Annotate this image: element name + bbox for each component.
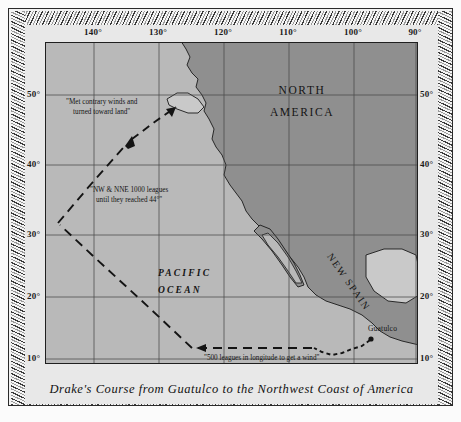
lon-tick-90: 90° — [408, 27, 421, 37]
lat-tick-left-30: 30° — [27, 229, 40, 239]
annotation-nw-nne-leagues-line2: until they reached 44°" — [90, 195, 168, 205]
annotation-500-leagues: "500 leagues in longitude to get a wind" — [204, 353, 319, 363]
rope-border-right-icon — [438, 11, 452, 405]
lat-tick-right-30: 30° — [420, 229, 433, 239]
lat-tick-right-40: 40° — [420, 159, 433, 169]
rope-border-top-icon — [11, 11, 452, 25]
annotation-contrary-winds: "Met contrary winds and turned toward la… — [66, 97, 137, 118]
map-caption: Drake's Course from Guatulco to the Nort… — [49, 382, 413, 397]
annotation-nw-nne-leagues: "NW & NNE 1000 leagues until they reache… — [90, 185, 168, 206]
caption-band: Drake's Course from Guatulco to the Nort… — [25, 374, 438, 404]
latitude-label-gutter-left — [25, 25, 45, 374]
annotation-contrary-winds-line2: turned toward land" — [66, 107, 137, 117]
route-leg-northwest — [60, 225, 192, 348]
latitude-label-gutter-right — [418, 25, 438, 374]
map-figure: 140° 130° 120° 110° 100° 90° 50° 40° 30°… — [0, 0, 461, 422]
map-plate: 140° 130° 120° 110° 100° 90° 50° 40° 30°… — [8, 8, 453, 406]
landmass-north-america — [179, 43, 418, 345]
annotation-nw-nne-leagues-line1: "NW & NNE 1000 leagues — [90, 185, 168, 195]
guatulco-marker-icon — [368, 336, 373, 341]
lat-tick-left-50: 50° — [27, 89, 40, 99]
lon-tick-130: 130° — [149, 27, 167, 37]
route-arrow-westward-icon — [196, 344, 206, 352]
lat-tick-right-10: 10° — [420, 353, 433, 363]
lat-tick-right-50: 50° — [420, 89, 433, 99]
lon-tick-120: 120° — [214, 27, 232, 37]
annotation-contrary-winds-line1: "Met contrary winds and — [66, 97, 137, 107]
lon-tick-140: 140° — [84, 27, 102, 37]
lat-tick-right-20: 20° — [420, 291, 433, 301]
route-leg-guatulco-coast — [314, 340, 370, 355]
lon-tick-110: 110° — [279, 27, 296, 37]
lat-tick-left-40: 40° — [27, 159, 40, 169]
rope-border-left-icon — [11, 11, 25, 405]
lat-tick-left-20: 20° — [27, 291, 40, 301]
map-plot-area: NORTH AMERICA PACIFIC OCEAN NEW SPAIN Gu… — [45, 42, 418, 364]
lon-tick-100: 100° — [344, 27, 362, 37]
lat-tick-left-10: 10° — [27, 353, 40, 363]
